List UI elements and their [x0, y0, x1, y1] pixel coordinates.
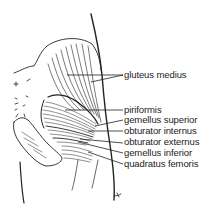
leader-quadratus-femoris [88, 152, 123, 164]
label-gemellus-inferior: gemellus inferior [124, 148, 192, 158]
leader-gemellus-inferior [78, 142, 123, 153]
leg-outline [20, 162, 24, 203]
sacrum-marks [14, 79, 30, 117]
ischium-outline [13, 118, 62, 166]
label-gluteus-medius: gluteus medius [124, 70, 187, 80]
femur-line-right [92, 160, 98, 188]
anatomy-illustration [0, 0, 210, 215]
label-quadratus-femoris: quadratus femoris [124, 159, 198, 169]
label-gemellus-superior: gemellus superior [124, 115, 197, 125]
leader-gemellus-superior [95, 120, 123, 126]
label-obturator-internus: obturator internus [124, 126, 197, 136]
label-obturator-externus: obturator externus [124, 137, 199, 147]
body-contour [91, 14, 114, 200]
femur-line-left [72, 160, 78, 190]
iliac-crest [14, 39, 101, 73]
hip-muscle-diagram: gluteus medius piriformis gemellus super… [0, 0, 210, 215]
